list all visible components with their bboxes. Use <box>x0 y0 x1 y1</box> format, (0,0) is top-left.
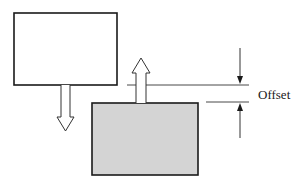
top-block <box>14 13 117 85</box>
bottom-block <box>92 103 198 175</box>
offset-diagram: Offset <box>0 0 304 185</box>
dimension-arrow-top-icon <box>237 48 243 84</box>
offset-label: Offset <box>258 88 290 101</box>
dimension-arrow-bottom-icon <box>237 103 243 138</box>
up-arrow-icon <box>132 58 150 103</box>
down-arrow-icon <box>57 85 74 131</box>
